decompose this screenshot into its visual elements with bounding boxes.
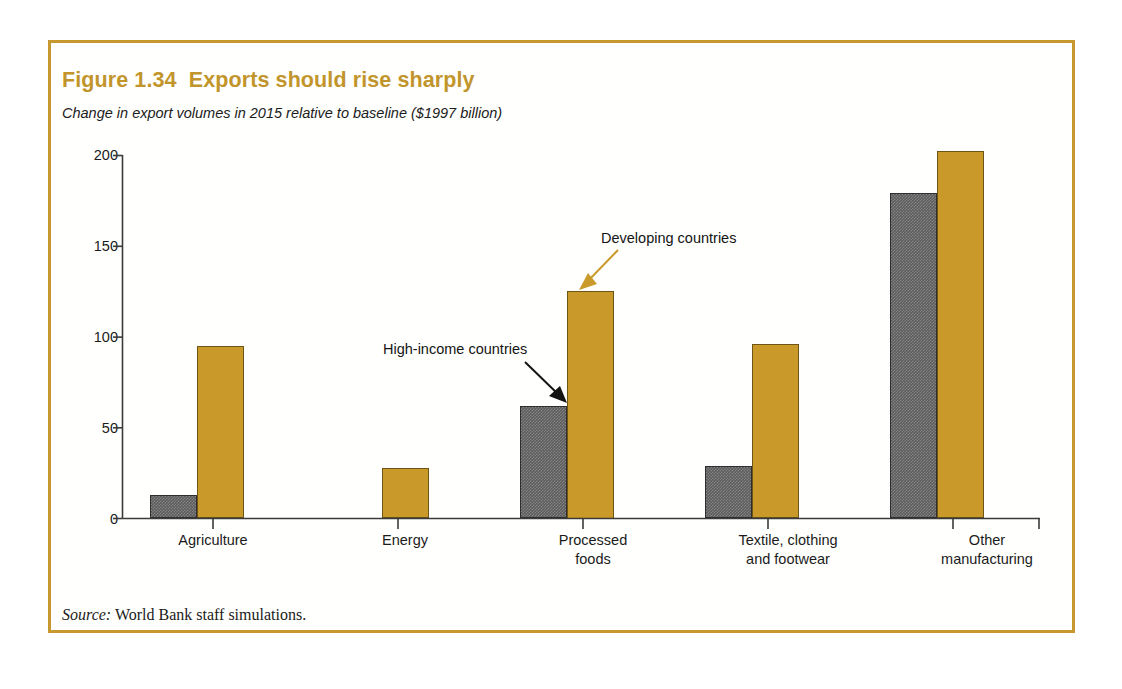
bar-processed-foods-high-income [520, 406, 567, 519]
bar-agriculture-high-income [150, 495, 197, 519]
bar-energy-developing [382, 468, 429, 519]
bar-textile-clothing-footwear-developing [752, 344, 799, 518]
bar-processed-foods-developing [567, 291, 614, 518]
bar-other-manufacturing-developing [937, 151, 984, 518]
bar-other-manufacturing-high-income [890, 193, 937, 518]
bar-agriculture-developing [197, 346, 244, 519]
bars-layer [0, 0, 1122, 689]
bar-textile-clothing-footwear-high-income [705, 466, 752, 519]
